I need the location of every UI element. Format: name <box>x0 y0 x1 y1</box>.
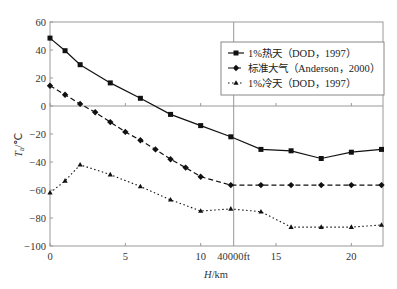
diamond-marker <box>62 92 68 98</box>
y-axis: 6040200−20−40−60−80−100 <box>24 17 53 252</box>
square-marker <box>228 134 233 139</box>
square-marker <box>349 150 354 155</box>
diamond-marker <box>122 129 128 135</box>
square-marker <box>258 147 263 152</box>
legend-label: 标准大气（Anderson，2000） <box>248 62 380 74</box>
reference-line-label: 40000ft <box>217 251 250 262</box>
square-marker <box>379 147 384 152</box>
x-tick-label: 20 <box>346 251 357 262</box>
line-chart: 40000ft 6040200−20−40−60−80−100 05101520… <box>0 0 397 289</box>
y-tick-label: −100 <box>24 241 46 252</box>
triangle-marker <box>108 172 113 177</box>
legend-item: 1%冷天（DOD，1997） <box>228 77 356 89</box>
diamond-marker <box>318 182 324 188</box>
diamond-marker <box>137 137 143 143</box>
diamond-marker <box>152 146 158 152</box>
triangle-marker <box>288 224 293 229</box>
x-tick-label: 5 <box>123 251 128 262</box>
square-marker <box>198 123 203 128</box>
square-marker <box>48 36 53 41</box>
diamond-marker <box>288 182 294 188</box>
square-marker <box>168 112 173 117</box>
legend-item: 1%热天（DOD，1997） <box>228 47 356 59</box>
series-line <box>50 86 382 185</box>
diamond-marker <box>47 83 53 89</box>
legend-label: 1%冷天（DOD，1997） <box>248 77 356 89</box>
square-marker <box>108 80 113 85</box>
triangle-marker <box>47 190 52 195</box>
y-tick-label: 60 <box>36 17 47 28</box>
legend-item: 标准大气（Anderson，2000） <box>228 62 380 74</box>
x-tick-label: 15 <box>271 251 282 262</box>
series-dotted <box>47 162 384 229</box>
triangle-marker <box>349 224 354 229</box>
triangle-marker <box>138 184 143 189</box>
square-marker <box>289 148 294 153</box>
square-marker <box>319 156 324 161</box>
x-tick-label: 0 <box>47 251 52 262</box>
y-tick-label: 40 <box>36 45 47 56</box>
y-tick-label: −80 <box>30 213 46 224</box>
square-marker <box>234 51 239 56</box>
diamond-marker <box>258 182 264 188</box>
diamond-marker <box>348 182 354 188</box>
y-tick-label: 20 <box>36 73 47 84</box>
y-tick-label: 0 <box>41 101 46 112</box>
diamond-marker <box>197 174 203 180</box>
x-tick-label: 10 <box>195 251 206 262</box>
y-tick-label: −40 <box>30 157 46 168</box>
y-tick-label: −20 <box>30 129 46 140</box>
diamond-marker <box>228 182 234 188</box>
legend-label: 1%热天（DOD，1997） <box>248 47 356 59</box>
diamond-marker <box>378 182 384 188</box>
x-axis-title: H/km <box>203 269 228 280</box>
y-tick-label: −60 <box>30 185 46 196</box>
series-dashed <box>47 83 385 189</box>
diamond-marker <box>92 109 98 115</box>
y-axis-title: Ta/℃ <box>13 133 26 157</box>
square-marker <box>138 96 143 101</box>
square-marker <box>78 62 83 67</box>
square-marker <box>63 48 68 53</box>
triangle-marker <box>78 162 83 167</box>
diamond-marker <box>182 164 188 170</box>
diamond-marker <box>167 156 173 162</box>
legend: 1%热天（DOD，1997）标准大气（Anderson，2000）1%冷天（DO… <box>221 42 384 95</box>
diamond-marker <box>107 119 113 125</box>
series-line <box>50 165 382 227</box>
triangle-marker <box>62 178 67 183</box>
triangle-marker <box>228 206 233 211</box>
